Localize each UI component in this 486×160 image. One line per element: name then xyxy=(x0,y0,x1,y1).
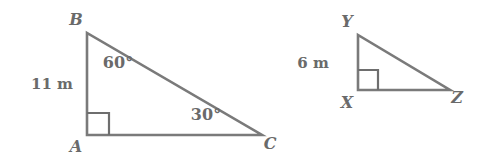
vertex-label-a: A xyxy=(68,137,82,156)
angle-label-b: 60° xyxy=(103,53,133,72)
vertex-label-c: C xyxy=(264,134,277,153)
triangles-diagram: 11 m 60° 30° B A C 6 m Y X Z xyxy=(0,0,486,160)
vertex-label-b: B xyxy=(68,10,83,29)
vertex-label-z: Z xyxy=(450,88,464,107)
side-label-xy: 6 m xyxy=(297,54,329,72)
geometry-figure: 11 m 60° 30° B A C 6 m Y X Z xyxy=(0,0,486,160)
angle-label-c: 30° xyxy=(191,105,221,124)
vertex-label-x: X xyxy=(340,93,354,112)
vertex-label-y: Y xyxy=(341,12,354,31)
side-label-ab: 11 m xyxy=(31,75,73,93)
